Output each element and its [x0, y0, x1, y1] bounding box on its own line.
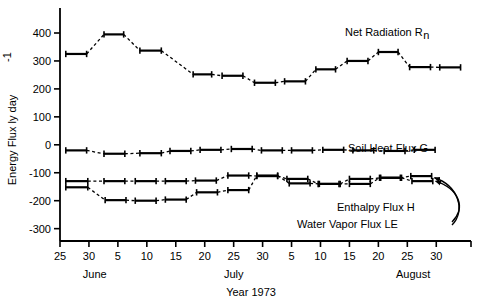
series-connector: [368, 52, 378, 61]
x-tick-label: 30: [256, 250, 268, 262]
x-tick-label: 15: [343, 250, 355, 262]
series-connector: [156, 200, 165, 201]
series-h: [66, 172, 432, 187]
x-month-label: June: [83, 268, 107, 280]
series-connector: [398, 52, 410, 67]
series-label-rn: Net Radiation R: [345, 26, 423, 38]
series-connector: [221, 149, 231, 150]
x-tick-label: 25: [401, 250, 413, 262]
y-tick-label: -300: [29, 223, 51, 235]
series-connector: [340, 179, 349, 184]
x-tick-label: 20: [199, 250, 211, 262]
series-connector: [216, 176, 228, 181]
x-tick-label: 5: [115, 250, 121, 262]
series-label-h: Enthalpy Flux H: [337, 201, 415, 213]
series-connector: [243, 76, 255, 83]
y-tick-label: 200: [33, 83, 51, 95]
series-connector: [275, 81, 284, 82]
y-tick-label: 0: [45, 139, 51, 151]
series-connector: [249, 176, 257, 177]
x-tick-label: 30: [83, 250, 95, 262]
series-connector: [87, 34, 104, 54]
series-connector: [312, 150, 322, 151]
series-connector: [217, 190, 227, 192]
y-axis-title: Energy Flux ly day: [6, 94, 18, 185]
series-connector: [336, 61, 348, 69]
y-tick-label: 100: [33, 111, 51, 123]
y-tick-label: 300: [33, 55, 51, 67]
series-connector: [252, 149, 261, 150]
energy-flux-chart: 4003002001000-100-200-300253051015202530…: [0, 0, 487, 300]
x-tick-label: 5: [288, 250, 294, 262]
y-tick-label: 400: [33, 27, 51, 39]
series-connector: [88, 187, 105, 200]
series-connector: [310, 183, 319, 184]
series-connector: [191, 150, 200, 151]
series-connector: [305, 69, 315, 81]
series-label-subscript: n: [423, 29, 429, 41]
x-tick-label: 20: [372, 250, 384, 262]
y-axis-title-exponent: -1: [1, 52, 13, 62]
x-tick-label: 30: [430, 250, 442, 262]
series-connector: [126, 200, 135, 201]
y-tick-label: -100: [29, 167, 51, 179]
x-tick-label: 15: [170, 250, 182, 262]
series-connector: [249, 176, 257, 191]
series-connector: [161, 51, 193, 75]
series-label-g: Soil Heat Flux G: [348, 142, 428, 154]
x-tick-label: 25: [54, 250, 66, 262]
series-label-le: Water Vapor Flux LE: [297, 218, 398, 230]
x-month-label: August: [396, 268, 430, 280]
series-connector: [124, 34, 140, 50]
x-tick-label: 10: [314, 250, 326, 262]
x-axis-title: Year 1973: [226, 286, 276, 298]
y-tick-label: -200: [29, 195, 51, 207]
series-connector: [212, 74, 222, 75]
x-tick-label: 10: [141, 250, 153, 262]
x-tick-label: 25: [228, 250, 240, 262]
chart-svg: 4003002001000-100-200-300253051015202530…: [0, 0, 487, 300]
series-connector: [186, 192, 196, 199]
series-rn: [66, 31, 461, 86]
series-connector: [125, 153, 140, 154]
series-connector: [87, 150, 104, 153]
series-connector: [186, 181, 195, 182]
x-month-label: July: [224, 268, 244, 280]
series-connector: [161, 151, 170, 153]
leader-arrow: [436, 181, 460, 222]
